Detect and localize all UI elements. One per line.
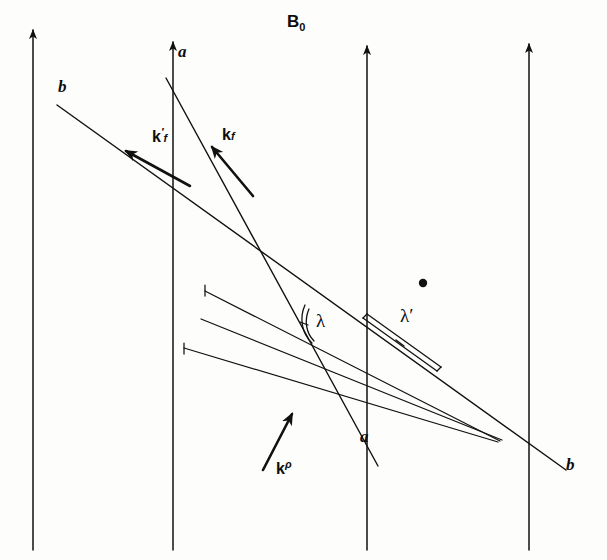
lambda-prime-cap-right: [437, 367, 441, 371]
line-b-bottom-label: b: [566, 455, 575, 475]
line-a: [166, 78, 378, 466]
line-a-top-label: a: [178, 42, 187, 62]
k-incident-base: k: [276, 460, 285, 477]
k-incident-superscript: ρ: [285, 458, 292, 470]
line-b-top-label: b: [58, 77, 67, 97]
figure-canvas: B0 k′f kf kρ λ λ′ a a b b: [0, 0, 607, 560]
lattice-plane-3: [184, 348, 498, 442]
k-final-prime-subscript: f: [164, 132, 168, 144]
diagram-svg: [0, 0, 607, 560]
lattice-plane-lines: [184, 285, 502, 442]
scattering-point-dot: [419, 279, 427, 287]
lambda-label: λ: [316, 310, 325, 332]
k-final-arrow: [212, 147, 253, 196]
lattice-plane-2: [201, 319, 502, 440]
lambda-prime-label: λ′: [400, 305, 413, 327]
k-final-base: k: [222, 126, 231, 143]
path-difference-lambda: [300, 305, 314, 343]
k-final-prime-arrow: [126, 151, 190, 186]
k-final-label: kf: [222, 126, 235, 144]
line-a-bottom-label: a: [360, 427, 369, 447]
k-final-subscript: f: [231, 130, 235, 142]
crystal-axis-lines: [57, 78, 566, 470]
wavevector-arrows: [126, 147, 292, 470]
line-b: [57, 105, 566, 470]
k-final-prime-label: k′f: [152, 126, 167, 146]
k-final-prime-base: k: [152, 128, 161, 145]
k-incident-label: kρ: [276, 458, 292, 478]
field-label-text: B: [287, 12, 299, 31]
field-label: B0: [287, 12, 305, 33]
field-label-subscript: 0: [299, 21, 305, 33]
